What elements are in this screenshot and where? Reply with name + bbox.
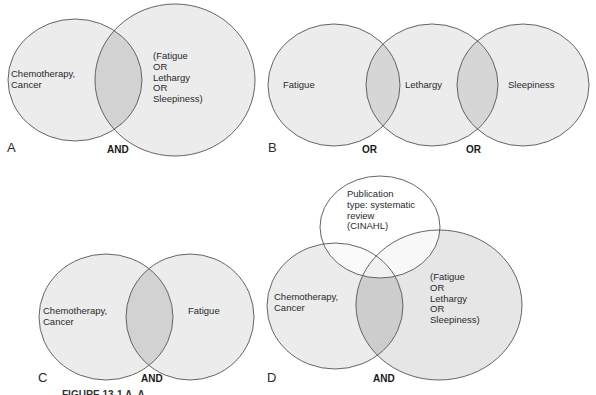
set-label-publication-type: Publication type: systematic review (CIN… xyxy=(347,189,415,232)
set-label-fatigue: Fatigue xyxy=(283,80,315,91)
set-label-chemotherapy-cancer: Chemotherapy, Cancer xyxy=(11,69,75,91)
set-label-sleepiness: Sleepiness xyxy=(508,80,554,91)
operator-or-1: OR xyxy=(362,144,377,155)
set-label-chemotherapy-cancer: Chemotherapy, Cancer xyxy=(274,292,338,314)
set-label-fatigue-lethargy-sleepiness: (Fatigue OR Lethargy OR Sleepiness) xyxy=(430,272,480,326)
operator-and: AND xyxy=(107,144,129,155)
panel-letter-a: A xyxy=(7,140,16,155)
figure-caption: FIGURE 13-1 A, A... xyxy=(62,389,153,395)
panel-letter-c: C xyxy=(38,370,47,385)
set-label-fatigue: Fatigue xyxy=(188,306,220,317)
set-label-fatigue-lethargy-sleepiness: (Fatigue OR Lethargy OR Sleepiness) xyxy=(153,51,203,105)
set-label-chemotherapy-cancer: Chemotherapy, Cancer xyxy=(43,306,107,328)
operator-or-2: OR xyxy=(466,144,481,155)
set-label-lethargy: Lethargy xyxy=(405,80,442,91)
operator-and: AND xyxy=(373,373,395,384)
operator-and: AND xyxy=(141,373,163,384)
panel-letter-d: D xyxy=(267,370,276,385)
panel-letter-b: B xyxy=(268,140,277,155)
venn-diagram-figure xyxy=(0,0,596,395)
